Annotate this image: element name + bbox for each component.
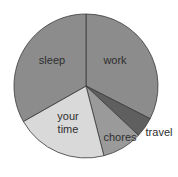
slice-label-sleep: sleep <box>39 54 65 66</box>
slice-label-travel: travel <box>146 126 173 138</box>
slice-label-chores: chores <box>103 131 137 143</box>
slice-label-your-time: yourtime <box>57 110 79 135</box>
slice-label-work: work <box>102 54 127 66</box>
pie-chart: worktravelchoresyourtimesleep <box>0 0 178 177</box>
